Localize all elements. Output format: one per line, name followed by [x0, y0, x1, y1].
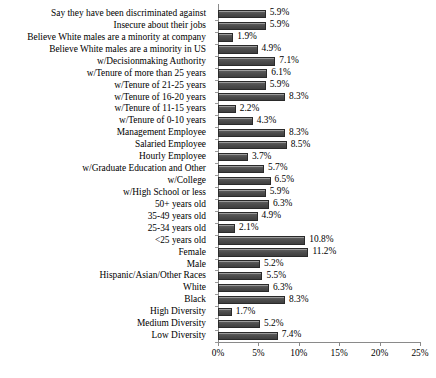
bar-row: 6.1%: [218, 68, 420, 80]
bar: [218, 81, 266, 89]
bar-value-label: 5.9%: [270, 19, 290, 31]
bar: [218, 22, 266, 30]
bar: [218, 93, 285, 101]
bar-row: 5.9%: [218, 80, 420, 92]
bar-value-label: 5.9%: [270, 7, 290, 19]
category-label: w/Decisionmaking Authority: [97, 56, 206, 68]
x-axis-tick-label: 10%: [290, 346, 307, 360]
bar: [218, 45, 258, 53]
bar-row: 5.9%: [218, 20, 420, 32]
category-label: White: [183, 282, 206, 294]
bar-row: 10.8%: [218, 235, 420, 247]
x-axis-tick-label: 0%: [212, 346, 225, 360]
category-label: Management Employee: [117, 127, 206, 139]
bar: [218, 320, 260, 328]
bar: [218, 69, 267, 77]
category-label: w/Graduate Education and Other: [82, 163, 206, 175]
bar-value-label: 6.5%: [275, 174, 295, 186]
bar: [218, 10, 266, 18]
x-axis-tick-label: 5%: [252, 346, 265, 360]
bar-row: 2.2%: [218, 103, 420, 115]
bar: [218, 236, 305, 244]
bar: [218, 141, 287, 149]
bar: [218, 296, 285, 304]
bar-value-label: 5.5%: [266, 270, 286, 282]
bar-value-label: 8.3%: [289, 294, 309, 306]
category-label: Hispanic/Asian/Other Races: [100, 270, 206, 282]
bar-value-label: 1.7%: [236, 306, 256, 318]
bar: [218, 284, 269, 292]
category-label: w/Tenure of 21-25 years: [114, 80, 206, 92]
bar-row: 6.3%: [218, 199, 420, 211]
bar-row: 4.9%: [218, 211, 420, 223]
bar-value-label: 8.5%: [291, 139, 311, 151]
bar-value-label: 7.1%: [279, 55, 299, 67]
category-label: w/Tenure of more than 25 years: [87, 68, 206, 80]
category-label: Insecure about their jobs: [114, 20, 206, 32]
bar: [218, 272, 262, 280]
bar-row: 7.4%: [218, 330, 420, 342]
bar: [218, 153, 248, 161]
category-label: Medium Diversity: [137, 318, 206, 330]
category-label: Female: [178, 247, 206, 259]
category-label-axis: Say they have been discriminated against…: [0, 8, 210, 342]
bar: [218, 117, 253, 125]
bar-row: 5.7%: [218, 163, 420, 175]
category-label: Believe White males are a minority in US: [49, 44, 206, 56]
bar-row: 5.5%: [218, 270, 420, 282]
bar: [218, 33, 233, 41]
bar-row: 1.7%: [218, 306, 420, 318]
bar-row: 11.2%: [218, 247, 420, 259]
bar-value-label: 4.9%: [262, 210, 282, 222]
bar-value-label: 2.1%: [239, 222, 259, 234]
bar-row: 5.9%: [218, 8, 420, 20]
bar: [218, 308, 232, 316]
category-label: Low Diversity: [152, 330, 206, 342]
bar-row: 8.3%: [218, 127, 420, 139]
x-axis-line: [218, 342, 421, 343]
plot-area: 5.9%5.9%1.9%4.9%7.1%6.1%5.9%8.3%2.2%4.3%…: [218, 8, 420, 342]
bar: [218, 224, 235, 232]
category-label: w/High School or less: [123, 187, 206, 199]
bar-value-label: 5.7%: [268, 162, 288, 174]
bar: [218, 260, 260, 268]
bar-value-label: 3.7%: [252, 151, 272, 163]
bar: [218, 248, 308, 256]
bar-value-label: 8.3%: [289, 127, 309, 139]
category-label: w/Tenure of 0-10 years: [119, 115, 206, 127]
bar: [218, 105, 236, 113]
bar: [218, 177, 271, 185]
category-label: <25 years old: [155, 235, 206, 247]
bar: [218, 200, 269, 208]
category-label: w/Tenure of 16-20 years: [114, 92, 206, 104]
bar-value-label: 7.4%: [282, 329, 302, 341]
bar-value-label: 2.2%: [240, 103, 260, 115]
category-label: w/College: [167, 175, 206, 187]
bar-row: 4.9%: [218, 44, 420, 56]
bar-row: 8.3%: [218, 294, 420, 306]
bar-row: 8.3%: [218, 92, 420, 104]
bar-row: 7.1%: [218, 56, 420, 68]
bar-value-label: 6.3%: [273, 282, 293, 294]
x-axis-tick-label: 20%: [371, 346, 388, 360]
category-label: 50+ years old: [155, 199, 206, 211]
bar: [218, 57, 275, 65]
bar-row: 4.3%: [218, 115, 420, 127]
bar-value-label: 8.3%: [289, 91, 309, 103]
bar-value-label: 10.8%: [309, 234, 333, 246]
category-label: 35-49 years old: [148, 211, 206, 223]
bar-row: 5.9%: [218, 187, 420, 199]
bar-row: 6.5%: [218, 175, 420, 187]
horizontal-bar-chart: Say they have been discriminated against…: [0, 0, 436, 378]
bar: [218, 165, 264, 173]
bar-value-label: 4.9%: [262, 43, 282, 55]
bar-row: 2.1%: [218, 223, 420, 235]
x-axis-tick-labels: 0%5%10%15%20%25%: [218, 346, 428, 362]
category-label: Say they have been discriminated against: [51, 8, 206, 20]
bar-value-label: 1.9%: [237, 31, 257, 43]
bar-value-label: 5.2%: [264, 258, 284, 270]
bar-row: 1.9%: [218, 32, 420, 44]
category-label: 25-34 years old: [148, 223, 206, 235]
bar-value-label: 5.9%: [270, 186, 290, 198]
bar: [218, 189, 266, 197]
